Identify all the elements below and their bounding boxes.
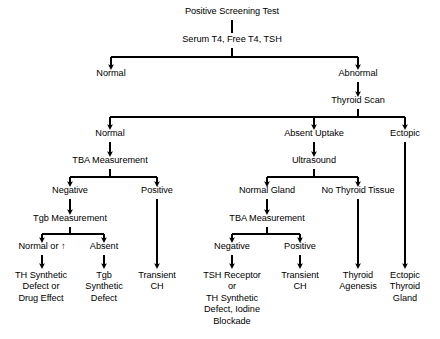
node-tba-positive-left: Positive [141,185,173,196]
node-scan-absent-uptake: Absent Uptake [284,128,344,139]
node-tgb-absent: Absent [90,241,118,252]
node-tgb-normal-or-high: Normal or ↑ [19,241,66,252]
node-ectopic-thyroid-gland: Ectopic Thyroid Gland [390,270,420,304]
node-us-no-thyroid-tissue: No Thyroid Tissue [321,185,394,196]
node-tba-measurement-left: TBA Measurement [72,155,147,166]
node-positive-screening-test: Positive Screening Test [185,6,279,17]
node-scan-normal: Normal [95,128,124,139]
node-abnormal-labs: Abnormal [339,68,378,79]
node-thyroid-agenesis: Thyroid Agenesis [339,270,376,293]
node-th-synthetic-defect-or-drug-effect: TH Synthetic Defect or Drug Effect [15,270,67,304]
node-scan-ectopic: Ectopic [390,128,420,139]
node-ultrasound: Ultrasound [292,155,336,166]
node-tsh-receptor-or-th-synthetic-defect-iodine-blockade: TSH Receptor or TH Synthetic Defect, Iod… [203,270,261,327]
node-tba-measurement-right: TBA Measurement [229,213,304,224]
node-tba-negative-left: Negative [52,185,88,196]
node-tba-negative-right: Negative [214,241,250,252]
node-tgb-synthetic-defect: Tgb Synthetic Defect [85,270,122,304]
node-thyroid-scan: Thyroid Scan [331,95,385,106]
node-transient-ch-left: Transient CH [138,270,176,293]
node-transient-ch-right: Transient CH [281,270,319,293]
node-normal-labs: Normal [96,68,125,79]
node-serum-t4-free-t4-tsh: Serum T4, Free T4, TSH [182,34,282,45]
node-tgb-measurement: Tgb Measurement [33,213,107,224]
node-tba-positive-right: Positive [284,241,316,252]
flowchart-canvas: Positive Screening Test Serum T4, Free T… [0,0,440,339]
node-us-normal-gland: Normal Gland [239,185,295,196]
